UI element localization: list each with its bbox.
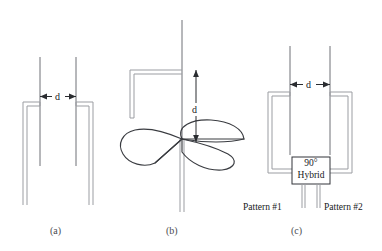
panel-a-caption: (a): [50, 226, 61, 236]
panel-b-blade-right: [182, 139, 234, 170]
panel-c-dimension-label: d: [306, 80, 311, 90]
panel-a-left-shield: [23, 102, 40, 205]
panel-c-right-shield: [330, 92, 352, 173]
figure-drawing: [0, 0, 382, 251]
panel-c-output-lines: [302, 184, 320, 208]
panel-a-right-shield: [76, 102, 93, 205]
panel-b-dimension-label: d: [192, 105, 197, 115]
panel-c-drawing: [268, 46, 352, 208]
panel-c-left-shield: [268, 92, 293, 173]
hybrid-box-name-label: Hybrid: [292, 171, 330, 181]
panel-b-caption: (b): [166, 226, 178, 236]
output-label-pattern-1: Pattern #1: [243, 203, 282, 213]
figure-container: d d d 90° Hybrid Pattern #1 Pattern #2 (…: [0, 0, 382, 251]
panel-b-feed-bracket: [130, 70, 182, 118]
panel-a-drawing: [23, 57, 93, 205]
panel-a-dimension-label: d: [55, 92, 60, 102]
hybrid-box-degree-label: 90°: [292, 159, 330, 169]
panel-b-drawing: [120, 20, 244, 212]
output-label-pattern-2: Pattern #2: [324, 203, 363, 213]
panel-c-caption: (c): [291, 226, 302, 236]
